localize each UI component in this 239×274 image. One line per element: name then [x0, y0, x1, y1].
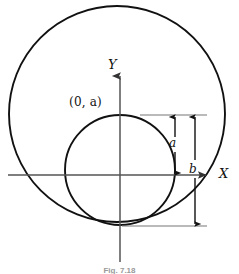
y-axis-label: Y: [108, 58, 117, 71]
large-circle: [9, 6, 225, 222]
dimension-a-label: a: [169, 137, 176, 149]
x-axis-label: X: [219, 167, 228, 180]
figure-container: Y X (0, a) a b Fig. 7.18: [0, 0, 239, 274]
dimension-b-label: b: [189, 163, 197, 175]
figure-caption: Fig. 7.18: [0, 266, 239, 274]
point-coordinate-label: (0, a): [69, 96, 102, 108]
geometry-diagram: [0, 0, 239, 274]
